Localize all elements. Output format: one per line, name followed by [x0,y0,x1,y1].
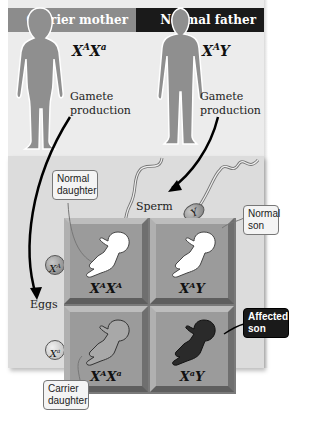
callout-carrier-daughter: Carrierdaughter [43,380,89,410]
callout-normal-son: Normalson [243,205,279,235]
callout-normal-daughter: Normaldaughter [52,170,98,200]
callout-affected-son: Affectedson [243,308,289,338]
